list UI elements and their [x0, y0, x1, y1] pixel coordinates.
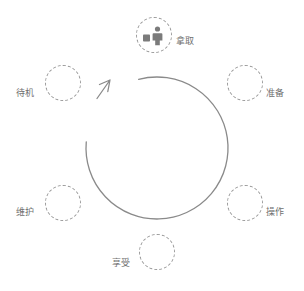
- node-label-prepare: 准备: [266, 88, 284, 99]
- node-enjoy[interactable]: [139, 234, 175, 270]
- node-label-standby: 待机: [16, 88, 34, 99]
- cycle-arc: [86, 77, 228, 219]
- node-standby[interactable]: [45, 65, 81, 101]
- person-with-box-icon: [137, 18, 173, 54]
- node-maintain[interactable]: [45, 185, 81, 221]
- node-label-operate: 操作: [266, 207, 284, 218]
- counterclockwise-arrow-head-icon: [97, 80, 110, 99]
- cycle-diagram: 拿取 准备 操作 享受 维护 待机: [0, 0, 304, 291]
- node-label-enjoy: 享受: [112, 258, 130, 269]
- node-label-maintain: 维护: [16, 207, 34, 218]
- node-pick[interactable]: [136, 17, 172, 53]
- node-label-pick: 拿取: [176, 36, 194, 47]
- node-prepare[interactable]: [227, 65, 263, 101]
- node-operate[interactable]: [227, 185, 263, 221]
